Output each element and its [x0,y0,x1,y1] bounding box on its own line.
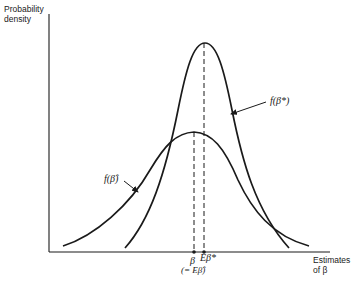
narrow-density-curve [125,43,289,248]
x-axis-label-line2: of β [313,265,350,275]
tick-label-beta-note: (= Eβ̂) [181,265,205,275]
y-axis-label: Probability density [4,4,44,24]
y-axis-label-line1: Probability [4,4,44,14]
wide-density-curve [63,132,309,246]
wide-curve-arrow [124,181,138,192]
beta-tick-dot [192,250,196,254]
x-axis-label: Estimates of β [313,255,350,275]
narrow-curve-arrow [231,102,266,114]
tick-label-ebeta-star: Eβ* [200,253,216,263]
y-axis-label-line2: density [4,14,44,24]
narrow-curve-label: f(β*) [270,96,289,106]
wide-curve-label: f(β̂) [104,174,118,184]
x-axis-label-line1: Estimates [313,255,350,265]
density-comparison-chart: Probability density Estimates of β f(β*)… [0,0,357,282]
chart-canvas [0,0,357,282]
